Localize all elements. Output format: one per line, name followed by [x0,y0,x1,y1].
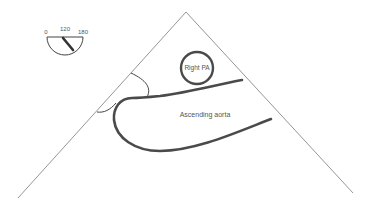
ascending-aorta-label: Ascending aorta [180,111,231,119]
ascending-aorta: Ascending aorta [114,80,271,151]
right-pa-label: Right PA [184,64,210,72]
sector-right-edge [186,12,353,193]
upper-thin-arc [131,73,149,97]
right-pa: Right PA [181,52,213,84]
dial-label-min: 0 [44,29,48,35]
sector-left-edge [18,12,186,198]
echo-diagram: 0 120 180 Right PA Ascending aorta [0,0,377,221]
dial-needle [63,38,73,50]
dial-label-mid: 120 [60,26,71,32]
angle-dial: 0 120 180 [44,26,88,55]
thin-structures [97,73,149,112]
imaging-sector [18,12,353,198]
dial-label-max: 180 [78,29,89,35]
